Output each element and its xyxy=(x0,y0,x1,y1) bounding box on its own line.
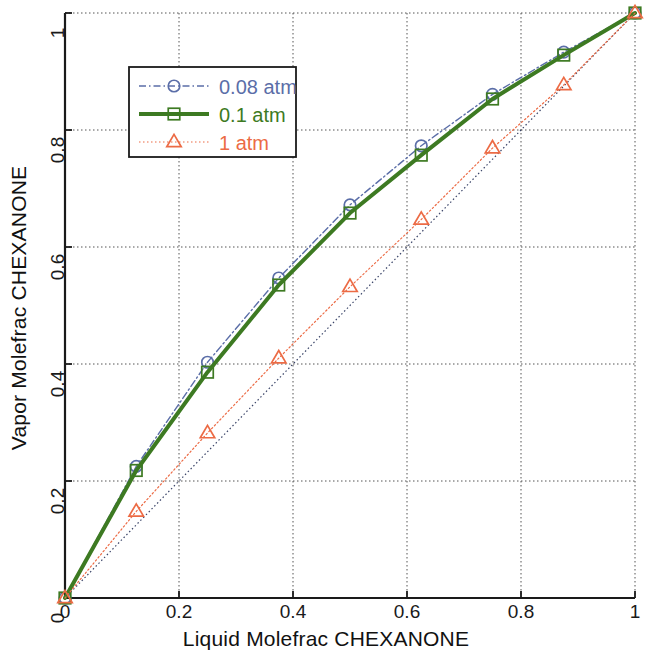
plot-canvas xyxy=(0,0,652,661)
legend-label-0: 0.08 atm xyxy=(219,76,297,99)
x-tick-label: 0.2 xyxy=(166,601,192,623)
x-tick-label: 1 xyxy=(630,601,641,623)
y-tick-label: 0.8 xyxy=(47,130,69,170)
marker-triangle xyxy=(343,279,357,291)
x-tick-label: 0.6 xyxy=(394,601,420,623)
marker-triangle xyxy=(485,141,499,153)
y-tick-label: 0.6 xyxy=(47,247,69,287)
x-tick-label: 0.4 xyxy=(280,601,306,623)
legend-label-1: 0.1 atm xyxy=(219,104,286,127)
y-tick-label: 1 xyxy=(47,13,69,53)
y-axis-title: Vapor Molefrac CHEXANONE xyxy=(7,166,30,451)
y-tick-label: 0.4 xyxy=(47,364,69,404)
y-tick-label: 0.2 xyxy=(47,481,69,521)
x-tick-label: 0.8 xyxy=(508,601,534,623)
y-axis-title-wrapper: Vapor Molefrac CHEXANONE xyxy=(7,8,33,608)
legend-label-2: 1 atm xyxy=(219,132,269,155)
x-axis-title: Liquid Molefrac CHEXANONE xyxy=(0,627,652,651)
vle-xy-diagram-figure: 0 0.2 0.4 0.6 0.8 1 0 0.2 0.4 0.6 0.8 1 … xyxy=(0,0,652,661)
